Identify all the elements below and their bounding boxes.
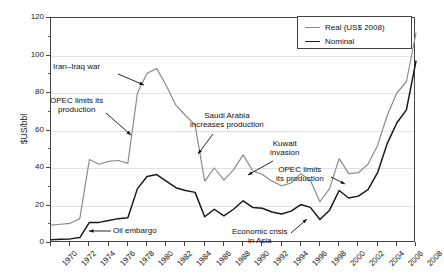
- annotation-oil-embargo: Oil embargo: [113, 227, 157, 236]
- y-tick-mark: [46, 167, 50, 168]
- x-tick-mark: [165, 242, 166, 246]
- annotation-opec-limits-production-1990s: OPEC limitsits production: [276, 166, 324, 184]
- y-tick-mark: [46, 17, 50, 18]
- y-tick-label: 100: [18, 50, 44, 59]
- x-tick-mark: [357, 242, 358, 246]
- x-tick-mark: [204, 242, 205, 246]
- legend-label: Nominal: [325, 37, 354, 46]
- annotation-arrow-kuwait-invasion: [248, 161, 273, 175]
- y-minor-tick-mark: [48, 73, 51, 74]
- x-tick-mark: [319, 242, 320, 246]
- annotation-arrow-saudi-arabia-increases-production: [198, 134, 213, 154]
- x-tick-mark: [377, 242, 378, 246]
- annotation-line: production: [50, 106, 103, 115]
- annotation-line: Oil embargo: [113, 227, 157, 236]
- y-tick-label: 40: [18, 162, 44, 171]
- annotation-arrow-economic-crisis-in-asia: [291, 219, 307, 233]
- annotation-saudi-arabia-increases-production: Saudi Arabiaincreases production: [190, 112, 264, 130]
- x-tick-mark: [396, 242, 397, 246]
- y-minor-tick-mark: [48, 223, 51, 224]
- x-tick-mark: [184, 242, 185, 246]
- annotation-line: in Asia: [232, 237, 288, 246]
- y-tick-mark: [46, 205, 50, 206]
- y-tick-label: 120: [18, 12, 44, 21]
- legend: Real (US$ 2008)Nominal: [297, 16, 412, 49]
- y-tick-label: 60: [18, 125, 44, 134]
- y-tick-mark: [46, 130, 50, 131]
- legend-item-nominal[interactable]: Nominal: [305, 37, 354, 46]
- annotation-arrow-opec-limits-production-1990s: [331, 177, 345, 184]
- annotation-line: increases production: [190, 121, 264, 130]
- x-tick-mark: [223, 242, 224, 246]
- x-tick-mark: [146, 242, 147, 246]
- annotation-opec-limits-production-1970s: OPEC limits itsproduction: [50, 97, 103, 115]
- x-tick-mark: [108, 242, 109, 246]
- x-tick-mark: [69, 242, 70, 246]
- y-minor-tick-mark: [48, 148, 51, 149]
- legend-swatch: [305, 41, 320, 42]
- annotation-arrow-opec-limits-production-1970s: [106, 113, 131, 135]
- annotation-iran-iraq-war: Iran–Iraq war: [53, 63, 100, 72]
- y-tick-mark: [46, 55, 50, 56]
- y-minor-tick-mark: [48, 186, 51, 187]
- annotation-line: Iran–Iraq war: [53, 63, 100, 72]
- legend-swatch: [305, 27, 320, 28]
- x-tick-mark: [415, 242, 416, 246]
- x-tick-mark: [338, 242, 339, 246]
- x-tick-mark: [50, 242, 51, 246]
- x-tick-mark: [88, 242, 89, 246]
- x-tick-mark: [127, 242, 128, 246]
- x-tick-mark: [300, 242, 301, 246]
- annotation-line: invasion: [270, 149, 299, 158]
- annotation-kuwait-invasion: Kuwaitinvasion: [270, 140, 299, 158]
- annotation-economic-crisis-in-asia: Economic crisisin Asia: [232, 228, 288, 246]
- y-tick-label: 80: [18, 87, 44, 96]
- annotation-line: its production: [276, 175, 324, 184]
- y-tick-label: 20: [18, 200, 44, 209]
- annotation-arrow-iran-iraq-war: [118, 74, 144, 85]
- y-tick-mark: [46, 92, 50, 93]
- y-minor-tick-mark: [48, 36, 51, 37]
- y-tick-label: 0: [18, 237, 44, 246]
- legend-item-real-us-2008[interactable]: Real (US$ 2008): [305, 23, 385, 32]
- legend-label: Real (US$ 2008): [325, 23, 385, 32]
